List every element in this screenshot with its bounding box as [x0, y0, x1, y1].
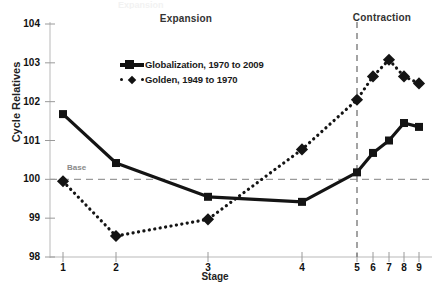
data-point [59, 110, 67, 118]
data-point [204, 193, 212, 201]
data-point [112, 159, 120, 167]
data-point [353, 168, 361, 176]
series-line-globalization [63, 114, 419, 202]
chart-container: Expansion Expansion Contraction Cycle Re… [0, 0, 434, 286]
data-point [413, 77, 425, 89]
series-line-golden [63, 60, 419, 236]
plot-area [0, 0, 434, 286]
series-markers-golden [57, 54, 425, 242]
data-point [369, 149, 377, 157]
data-point [400, 119, 408, 127]
data-point [351, 94, 363, 106]
data-point [298, 198, 306, 206]
data-point [385, 137, 393, 145]
data-point [415, 123, 423, 131]
